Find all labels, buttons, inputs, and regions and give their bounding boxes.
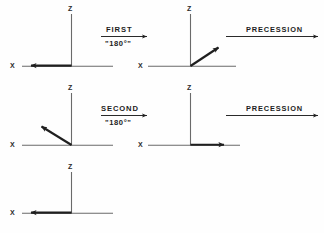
frame-3-z-label: Z — [68, 84, 72, 91]
frame-2-x-label: X — [138, 62, 143, 69]
diagram-background — [0, 0, 324, 233]
op-precession-2-label: PRECESSION — [246, 105, 303, 112]
frame-4-z-label: Z — [187, 84, 191, 91]
frame-2-z-label: Z — [187, 5, 191, 12]
frame-4-x-label: X — [138, 141, 143, 148]
op-second-sublabel: "180°" — [105, 119, 132, 127]
op-precession-1-label: PRECESSION — [246, 26, 303, 33]
frame-3-x-label: X — [10, 141, 15, 148]
frame-5-z-label: Z — [68, 163, 72, 170]
frame-5-x-label: X — [10, 209, 15, 216]
op-second-label: SECOND — [101, 105, 139, 113]
frame-1-z-label: Z — [68, 5, 72, 12]
physics-diagram-canvas — [0, 0, 324, 233]
frame-1-x-label: X — [10, 62, 15, 69]
op-first-sublabel: "180°" — [105, 40, 132, 48]
op-first-label: FIRST — [106, 26, 132, 34]
